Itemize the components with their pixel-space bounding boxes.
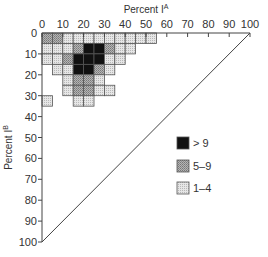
heatmap-cell [84,64,94,74]
heatmap-cell [73,75,83,85]
heatmap-cell [42,96,52,106]
heatmap-cell [52,33,62,43]
legend-swatch-mid [177,160,189,172]
heatmap-cell [52,43,62,53]
heatmap-cell [104,54,114,64]
y-tick-label: 30 [25,90,37,102]
heatmap-cell [52,54,62,64]
y-tick-label: 20 [25,69,37,81]
heatmap-cell [84,43,94,53]
heatmap-cell [73,33,83,43]
x-tick-label: 100 [241,18,259,30]
heatmap-cell [63,43,73,53]
heatmap-cell [94,85,104,95]
y-tick-label: 10 [25,48,37,60]
heatmap-cell [84,85,94,95]
legend-swatch-low [177,182,189,194]
heatmap-cell [42,43,52,53]
heatmap-cell [115,33,125,43]
heatmap-cell [73,85,83,95]
heatmap-cell [63,75,73,85]
x-tick-label: 70 [181,18,193,30]
heatmap-cell [63,33,73,43]
heatmap-cell [84,75,94,85]
heatmap-cell [73,54,83,64]
y-tick-label: 90 [25,215,37,227]
heatmap-cell [104,43,114,53]
heatmap-cell [73,43,83,53]
y-tick-label: 60 [25,152,37,164]
heatmap-cell [146,33,156,43]
heatmap-cell [73,64,83,74]
heatmap-cell [136,33,146,43]
x-tick-label: 10 [57,18,69,30]
x-tick-label: 40 [119,18,131,30]
heatmap-cell [63,54,73,64]
heatmap-cells [42,33,156,106]
x-axis-title: Percent IA [124,3,169,15]
x-tick-label: 0 [39,18,45,30]
x-tick-label: 60 [161,18,173,30]
heatmap-cell [94,75,104,85]
x-tick-label: 80 [202,18,214,30]
y-tick-label: 50 [25,132,37,144]
legend-label-high: > 9 [193,137,209,149]
y-tick-label: 40 [25,111,37,123]
heatmap-cell [104,64,114,74]
heatmap-cell [94,33,104,43]
legend-swatch-high [177,137,189,149]
heatmap-cell [125,43,135,53]
heatmap-cell [125,33,135,43]
heatmap-cell [52,64,62,74]
heatmap-cell [73,96,83,106]
legend: > 95–91–4 [177,137,211,194]
x-tick-label: 50 [140,18,152,30]
heatmap-cell [94,54,104,64]
heatmap-cell [42,54,52,64]
y-tick-label: 70 [25,173,37,185]
y-axis-title: Percent IB [2,125,14,170]
y-tick-label: 100 [19,236,37,248]
heatmap-cell [115,54,125,64]
heatmap-cell [94,64,104,74]
legend-label-mid: 5–9 [193,160,211,172]
heatmap-cell [84,96,94,106]
y-tick-label: 80 [25,194,37,206]
heatmap-cell [63,64,73,74]
x-tick-label: 30 [98,18,110,30]
heatmap-cell [42,33,52,43]
heatmap-chart: 0102030405060708090100010203040506070809… [0,0,268,257]
y-tick-label: 0 [31,27,37,39]
heatmap-cell [63,85,73,95]
heatmap-cell [84,33,94,43]
heatmap-cell [115,43,125,53]
legend-label-low: 1–4 [193,182,211,194]
heatmap-cell [104,33,114,43]
x-tick-label: 20 [77,18,89,30]
heatmap-cell [104,85,114,95]
heatmap-cell [94,43,104,53]
heatmap-cell [84,54,94,64]
x-tick-label: 90 [223,18,235,30]
